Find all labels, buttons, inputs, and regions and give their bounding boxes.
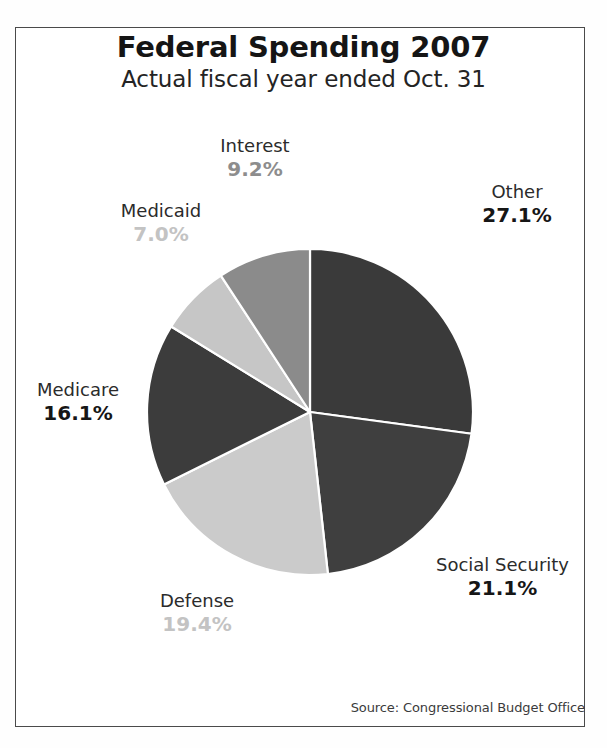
slice-name-medicaid: Medicaid bbox=[96, 201, 226, 221]
slice-name-medicare: Medicare bbox=[18, 380, 138, 400]
slice-label-other: Other 27.1% bbox=[462, 182, 572, 227]
figure-page: Federal Spending 2007 Actual fiscal year… bbox=[0, 0, 607, 748]
page-title: Federal Spending 2007 bbox=[0, 30, 607, 64]
slice-label-medicare: Medicare 16.1% bbox=[18, 380, 138, 425]
slice-name-defense: Defense bbox=[132, 591, 262, 611]
pie-slice-other bbox=[310, 249, 473, 434]
slice-value-medicare: 16.1% bbox=[18, 402, 138, 424]
slice-label-interest: Interest 9.2% bbox=[190, 136, 320, 181]
slice-label-defense: Defense 19.4% bbox=[132, 591, 262, 636]
slice-label-social-security: Social Security 21.1% bbox=[425, 555, 580, 600]
slice-value-interest: 9.2% bbox=[190, 158, 320, 180]
slice-value-other: 27.1% bbox=[462, 204, 572, 226]
pie-chart bbox=[145, 247, 475, 577]
page-subtitle: Actual fiscal year ended Oct. 31 bbox=[0, 66, 607, 92]
slice-value-social-security: 21.1% bbox=[425, 577, 580, 599]
slice-name-social-security: Social Security bbox=[425, 555, 580, 575]
source-note: Source: Congressional Budget Office bbox=[351, 700, 585, 715]
slice-name-interest: Interest bbox=[190, 136, 320, 156]
pie-slice-social-security bbox=[310, 412, 472, 574]
slice-value-defense: 19.4% bbox=[132, 613, 262, 635]
slice-label-medicaid: Medicaid 7.0% bbox=[96, 201, 226, 246]
slice-value-medicaid: 7.0% bbox=[96, 223, 226, 245]
slice-name-other: Other bbox=[462, 182, 572, 202]
pie-chart-svg bbox=[145, 247, 475, 577]
